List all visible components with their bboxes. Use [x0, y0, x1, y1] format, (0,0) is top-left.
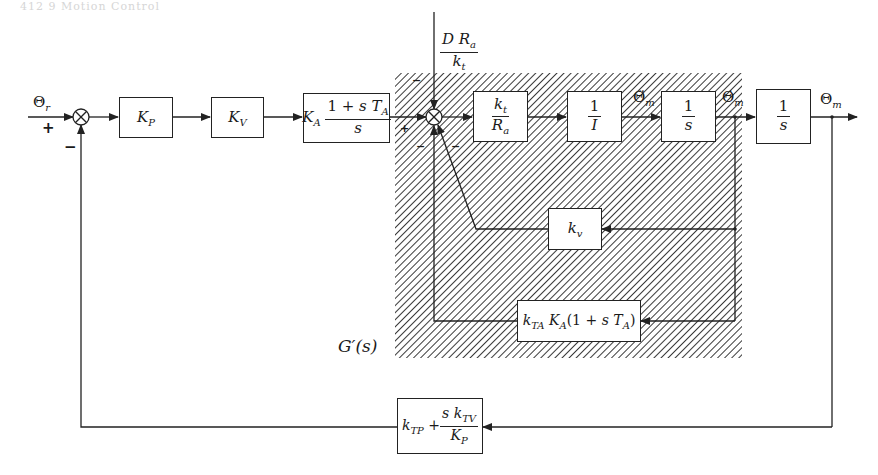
acceleration-label: Θ̈m	[633, 88, 655, 108]
sum2-plus-sign: +	[400, 122, 409, 135]
inertia-block: 1I	[567, 91, 622, 142]
summing-junction-1	[73, 109, 89, 125]
input-signal-label: Θr	[33, 93, 50, 113]
kta-feedback-block: kTA KA(1 + s TA)	[517, 300, 641, 342]
sum2-minus-sign-bottom: −	[416, 140, 425, 153]
kv-feedback-block: kv	[548, 208, 602, 250]
velocity-label: Θ̇m	[722, 88, 744, 108]
summing-junction-2	[426, 109, 442, 125]
position-feedback-block: kTP + s kTVKP	[397, 398, 483, 454]
kv-block: KV	[211, 97, 264, 138]
kp-block: KP	[119, 97, 173, 138]
sum2-minus-sign-top: −	[412, 74, 421, 87]
ka-block: KA 1 + s TAs	[303, 93, 390, 143]
kt-ra-block: ktRa	[473, 91, 528, 142]
sum1-minus-sign: −	[64, 138, 77, 156]
output-signal-label: Θm	[820, 90, 842, 110]
disturbance-label: D Rakt	[440, 30, 478, 72]
integrator-block-2: 1s	[756, 89, 811, 144]
sum1-plus-sign: +	[42, 119, 55, 137]
subsystem-label: G′(s)	[338, 336, 377, 356]
integrator-block-1: 1s	[661, 91, 716, 142]
sum2-minus-sign-diag: −	[451, 140, 460, 153]
